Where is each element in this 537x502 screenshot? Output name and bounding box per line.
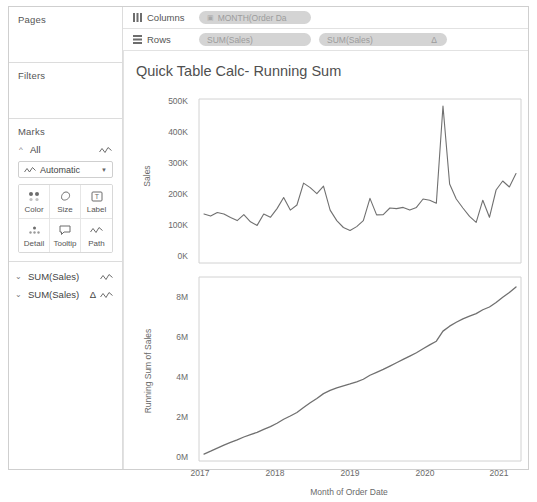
path-icon — [90, 224, 103, 237]
calendar-icon: ▣ — [207, 14, 214, 22]
marks-title: Marks — [18, 126, 113, 137]
pill-label: SUM(Sales) — [207, 35, 253, 45]
columns-shelf[interactable]: Columns ▣ MONTH(Order Da — [123, 7, 528, 29]
mark-type-label: Automatic — [40, 165, 101, 175]
marks-label-button[interactable]: T Label — [81, 185, 112, 219]
marks-button-label: Detail — [24, 239, 44, 248]
measure-cards: ⌄ SUM(Sales) ⌄ SUM(Sales) Δ — [9, 262, 122, 314]
marks-tooltip-button[interactable]: Tooltip — [50, 219, 81, 252]
marks-color-button[interactable]: Color — [19, 185, 50, 219]
delta-badge: Δ — [90, 289, 96, 300]
mark-type-select[interactable]: Automatic ▼ — [18, 161, 113, 178]
detail-icon — [28, 224, 41, 237]
chevron-down-icon[interactable]: ⌄ — [15, 290, 26, 299]
columns-label: Columns — [147, 12, 199, 23]
marks-path-button[interactable]: Path — [81, 219, 112, 252]
marks-all-row[interactable]: ^ All — [18, 144, 113, 155]
chart-area: Sales Running Sum of Sales Month of Orde… — [124, 91, 528, 469]
pages-shelf[interactable]: Pages — [9, 7, 122, 63]
pages-title: Pages — [18, 14, 113, 25]
pill-sum-sales-2[interactable]: SUM(Sales) Δ — [319, 33, 447, 46]
rows-icon — [131, 35, 143, 44]
filters-shelf[interactable]: Filters — [9, 63, 122, 119]
marks-button-grid: Color Size T Label — [18, 184, 113, 253]
line-mark-icon — [24, 166, 36, 174]
chevron-up-icon[interactable]: ^ — [19, 145, 30, 154]
tooltip-icon — [59, 224, 71, 237]
marks-button-label: Path — [88, 239, 104, 248]
sidebar: Pages Filters Marks ^ All Automatic ▼ — [9, 7, 123, 469]
marks-all-label: All — [30, 144, 99, 155]
viz-panel: Columns ▣ MONTH(Order Da Rows SUM(Sales)… — [123, 7, 528, 469]
line-mark-icon — [100, 273, 113, 281]
chevron-down-icon[interactable]: ⌄ — [15, 272, 26, 281]
delta-badge: Δ — [431, 35, 437, 45]
marks-size-button[interactable]: Size — [50, 185, 81, 219]
size-icon — [59, 190, 72, 203]
measure-card-sum-sales-2[interactable]: ⌄ SUM(Sales) Δ — [15, 289, 113, 300]
page-title: Quick Table Calc- Running Sum — [124, 51, 528, 88]
chevron-down-icon[interactable]: ▼ — [101, 167, 107, 173]
marks-button-label: Tooltip — [53, 239, 76, 248]
viz-container: Quick Table Calc- Running Sum Sales Runn… — [123, 51, 528, 469]
pill-month-order-date[interactable]: ▣ MONTH(Order Da — [199, 11, 311, 24]
upper-chart-line — [204, 106, 516, 231]
measure-card-label: SUM(Sales) — [28, 271, 96, 282]
pill-sum-sales-1[interactable]: SUM(Sales) — [199, 33, 311, 46]
color-icon — [28, 190, 40, 203]
marks-detail-button[interactable]: Detail — [19, 219, 50, 252]
lower-chart-line — [204, 287, 516, 454]
svg-text:T: T — [94, 193, 99, 200]
pill-label: MONTH(Order Da — [218, 13, 287, 23]
marks-card: Marks ^ All Automatic ▼ — [9, 119, 122, 262]
chart-svg — [124, 91, 531, 491]
measure-card-sum-sales-1[interactable]: ⌄ SUM(Sales) — [15, 271, 113, 282]
label-icon: T — [91, 190, 103, 203]
tableau-workspace: Pages Filters Marks ^ All Automatic ▼ — [8, 6, 529, 470]
marks-button-label: Label — [87, 205, 107, 214]
pill-label: SUM(Sales) — [327, 35, 373, 45]
line-mark-icon — [99, 146, 112, 154]
filters-title: Filters — [18, 70, 113, 81]
line-mark-icon — [100, 291, 113, 299]
marks-button-label: Color — [24, 205, 43, 214]
measure-card-label: SUM(Sales) — [28, 289, 90, 300]
marks-button-label: Size — [57, 205, 73, 214]
columns-icon — [131, 13, 143, 22]
rows-label: Rows — [147, 34, 199, 45]
rows-shelf[interactable]: Rows SUM(Sales) SUM(Sales) Δ — [123, 29, 528, 51]
